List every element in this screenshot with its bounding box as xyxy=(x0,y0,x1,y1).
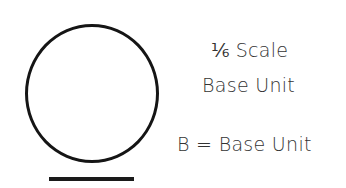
base-unit-line xyxy=(49,177,134,181)
scale-word: Scale xyxy=(236,39,289,61)
scale-label: ⅙ Scale xyxy=(211,39,288,61)
legend-label: B = Base Unit xyxy=(177,133,312,155)
scale-fraction: ⅙ xyxy=(211,39,229,61)
base-unit-circle xyxy=(25,24,159,163)
base-unit-label: Base Unit xyxy=(202,74,295,96)
